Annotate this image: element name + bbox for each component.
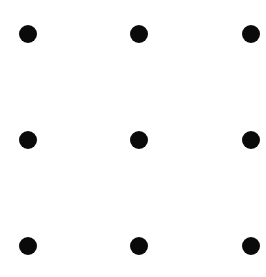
grid-dot-r0-c2	[242, 25, 260, 43]
grid-dot-r0-c1	[130, 25, 148, 43]
grid-dot-r2-c1	[130, 237, 148, 255]
grid-dot-r1-c0	[19, 131, 37, 149]
grid-dot-r2-c2	[242, 237, 260, 255]
dot-grid-canvas	[0, 0, 266, 277]
grid-dot-r0-c0	[19, 25, 37, 43]
grid-dot-r1-c1	[130, 131, 148, 149]
grid-dot-r2-c0	[19, 237, 37, 255]
grid-dot-r1-c2	[242, 131, 260, 149]
